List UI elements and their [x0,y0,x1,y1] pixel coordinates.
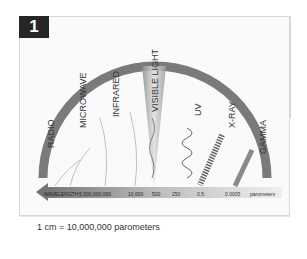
gamma-ray [235,150,252,186]
band-label-gamma: GAMMA [258,120,268,154]
tick-4: 0.5 [197,191,204,197]
xray-coil [200,135,222,185]
tick-1: 10,000 [128,191,144,197]
spectrum-diagram: RADIO MICROWAVE INFRARED VISIBLE LIGHT U… [0,0,307,259]
band-label-uv: UV [193,103,203,116]
tick-3: 250 [172,191,181,197]
tick-2: 500 [152,191,161,197]
axis-label: WAVELENGTH [44,191,79,197]
uv-wave [182,128,192,178]
tick-0: 5,000,000,000 [79,191,111,197]
band-label-radio: RADIO [46,119,56,148]
band-label-visible: VISIBLE LIGHT [150,48,160,112]
axis-unit: parometers [250,191,276,197]
band-label-microwave: MICROWAVE [78,73,88,129]
tick-5: 0.0005 [225,191,241,197]
scale-note: 1 cm = 10,000,000 parometers [37,222,160,232]
band-label-xray: X-RAY [227,101,237,128]
band-label-infrared: INFRARED [111,70,121,117]
